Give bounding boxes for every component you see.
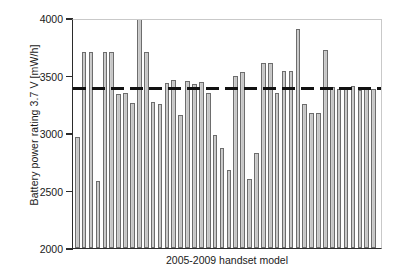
bar xyxy=(227,170,232,248)
bar xyxy=(268,63,273,248)
bar xyxy=(123,93,128,248)
y-axis-tick-label: 3000 xyxy=(3,128,63,140)
bar xyxy=(109,52,114,248)
bar xyxy=(351,86,356,248)
bar xyxy=(185,81,190,248)
mean-reference-line xyxy=(73,87,381,90)
bar xyxy=(96,181,101,248)
bar xyxy=(158,104,163,248)
bar xyxy=(330,87,335,248)
bar xyxy=(116,94,121,248)
bar xyxy=(282,71,287,248)
bar xyxy=(75,137,80,248)
bar xyxy=(171,80,176,248)
bar xyxy=(192,84,197,248)
bar xyxy=(261,63,266,248)
y-axis-tick-label: 4000 xyxy=(3,13,63,25)
y-axis-tick-label: 2000 xyxy=(3,243,63,255)
plot-area xyxy=(72,19,382,249)
bar xyxy=(144,52,149,248)
bar xyxy=(165,83,170,248)
bar xyxy=(220,148,225,248)
bar xyxy=(151,102,156,248)
bar xyxy=(316,113,321,248)
bar xyxy=(337,89,342,248)
bar xyxy=(103,52,108,248)
bar xyxy=(178,115,183,248)
bar xyxy=(364,88,369,248)
bar xyxy=(89,52,94,248)
bar xyxy=(206,93,211,248)
y-axis-tick-label: 3500 xyxy=(3,71,63,83)
bar xyxy=(233,76,238,249)
bar xyxy=(254,153,259,248)
x-axis-title: 2005-2009 handset model xyxy=(72,254,382,266)
bar-series xyxy=(73,20,381,248)
bar xyxy=(247,179,252,248)
bar xyxy=(344,88,349,248)
bar xyxy=(309,113,314,248)
bar xyxy=(323,50,328,248)
bar xyxy=(296,29,301,248)
bar xyxy=(240,72,245,248)
bar xyxy=(82,52,87,248)
bar xyxy=(371,89,376,248)
chart-figure: Battery power rating 3.7 V [mW/h] 400035… xyxy=(0,0,404,277)
y-axis-tick-label: 2500 xyxy=(3,186,63,198)
bar xyxy=(289,71,294,248)
bar xyxy=(275,93,280,248)
bar xyxy=(199,82,204,248)
bar xyxy=(302,104,307,248)
bar xyxy=(130,103,135,248)
bar xyxy=(213,135,218,248)
bar xyxy=(137,19,142,248)
y-axis-title: Battery power rating 3.7 V [mW/h] xyxy=(28,5,40,245)
bar xyxy=(358,90,363,248)
